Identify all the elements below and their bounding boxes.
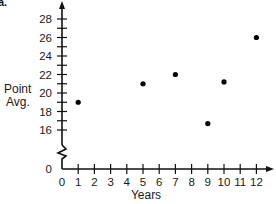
x-tick-label: 3 [107, 176, 113, 188]
data-point [173, 72, 178, 77]
x-tick-label: 4 [124, 176, 131, 188]
x-tick-label: 12 [250, 176, 263, 188]
x-tick-label: 1 [75, 176, 81, 188]
y-tick-labels: 016182022242628 [39, 13, 52, 175]
x-tick-label: 7 [172, 176, 178, 188]
x-tick-label: 9 [205, 176, 211, 188]
data-point [254, 35, 259, 40]
y-tick-label: 16 [39, 124, 52, 136]
data-point [205, 121, 210, 126]
data-points [76, 35, 259, 126]
x-tick-label: 2 [91, 176, 97, 188]
x-axis-label: Years [131, 188, 161, 202]
x-tick-label: 11 [234, 176, 246, 188]
y-tick-label: 0 [46, 163, 52, 175]
y-tick-label: 20 [39, 87, 52, 99]
problem-label: a. [0, 0, 7, 8]
y-axis-label-line2: Avg. [6, 95, 30, 109]
scatter-chart: a. 016182022242628 0123456789101112 Poin… [0, 0, 276, 204]
y-axis-label-line1: Point [4, 82, 32, 96]
data-point [140, 81, 145, 86]
x-tick-label: 6 [156, 176, 162, 188]
y-axis-arrow-icon [59, 1, 65, 9]
y-tick-label: 26 [39, 32, 52, 44]
y-axis-break [58, 145, 66, 169]
y-tick-label: 28 [39, 13, 52, 25]
x-tick-label: 5 [140, 176, 146, 188]
x-tick-label: 10 [218, 176, 231, 188]
x-tick-label: 8 [188, 176, 194, 188]
x-tick-label: 0 [59, 176, 65, 188]
x-axis-arrow-icon [266, 166, 274, 172]
axes [58, 6, 268, 169]
y-tick-label: 18 [39, 106, 52, 118]
data-point [221, 79, 226, 84]
y-tick-label: 24 [39, 50, 52, 62]
x-tick-labels: 0123456789101112 [59, 176, 263, 188]
data-point [76, 100, 81, 105]
y-tick-label: 22 [39, 69, 52, 81]
